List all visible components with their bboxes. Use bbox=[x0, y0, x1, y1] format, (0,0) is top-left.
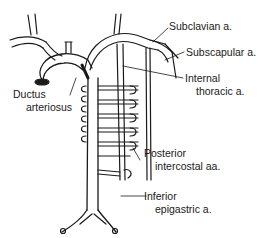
label-internal-thoracic-1: Internal bbox=[185, 73, 220, 84]
label-internal-thoracic-2: thoracic a. bbox=[196, 86, 244, 97]
label-inferior-1: Inferior bbox=[144, 191, 177, 202]
label-subclavian: Subclavian a. bbox=[169, 21, 232, 32]
label-subscapular: Subscapular a. bbox=[186, 47, 256, 58]
label-posterior-2: intercostal aa. bbox=[155, 161, 220, 172]
label-inferior-2: epigastric a. bbox=[155, 204, 212, 215]
label-posterior-1: Posterior bbox=[144, 148, 186, 159]
label-ductus-1: Ductus bbox=[13, 89, 46, 100]
anatomy-diagram: Subclavian a. Subscapular a. Internal th… bbox=[0, 0, 265, 238]
label-ductus-2: arteriosus bbox=[26, 102, 72, 113]
artery-illustration bbox=[0, 0, 265, 238]
